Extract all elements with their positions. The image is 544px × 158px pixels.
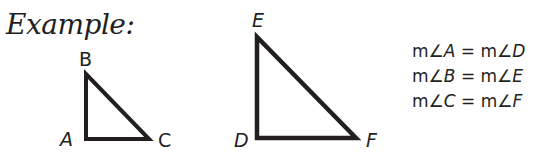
- vertex-label-d: D: [234, 131, 249, 150]
- example-figure: Example: B A C E D F m∠A = m∠D m∠B = m∠E…: [0, 0, 544, 158]
- vertex-label-e: E: [252, 11, 264, 30]
- angle-symbol: ∠: [497, 66, 512, 86]
- angle-symbol: ∠: [429, 41, 444, 61]
- equation-row: m∠A = m∠D: [412, 43, 525, 60]
- vertex-label-f: F: [366, 131, 377, 150]
- angle-symbol: ∠: [497, 41, 512, 61]
- vertex-label-c: C: [158, 131, 171, 150]
- vertex-label-a: A: [60, 130, 73, 149]
- equation-row: m∠B = m∠E: [412, 68, 523, 85]
- triangle-def: [257, 37, 356, 138]
- equation-row: m∠C = m∠F: [412, 93, 522, 110]
- angle-symbol: ∠: [429, 91, 444, 111]
- triangle-abc: [86, 74, 149, 139]
- angle-symbol: ∠: [497, 91, 512, 111]
- angle-symbol: ∠: [429, 66, 444, 86]
- vertex-label-b: B: [79, 50, 92, 69]
